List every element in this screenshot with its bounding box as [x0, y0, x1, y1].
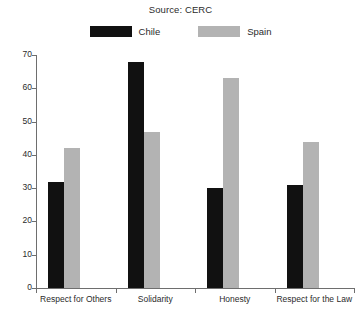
plot-area: 010203040506070 — [36, 55, 354, 288]
x-axis-tick — [116, 288, 117, 293]
bar-spain-respect-for-others — [64, 148, 80, 288]
bar-chile-honesty — [207, 188, 223, 288]
category-label: Solidarity — [138, 294, 173, 304]
x-axis-tick — [36, 288, 37, 293]
bar-spain-solidarity — [144, 132, 160, 288]
category-labels: Respect for OthersSolidarityHonestyRespe… — [36, 294, 354, 310]
category-label: Respect for the Law — [276, 294, 352, 304]
bar-groups — [36, 55, 354, 288]
y-axis-tick-label: 20 — [23, 215, 32, 225]
bar-chile-respect-for-others — [48, 182, 64, 289]
bar-group — [195, 55, 275, 288]
x-axis-tick — [275, 288, 276, 293]
bar-chile-solidarity — [128, 62, 144, 288]
legend-swatch-chile — [90, 26, 132, 37]
legend-swatch-spain — [198, 26, 240, 37]
y-axis-tick-label: 10 — [23, 249, 32, 259]
x-axis-tick — [195, 288, 196, 293]
y-axis-tick-label: 60 — [23, 82, 32, 92]
category-label: Honesty — [219, 294, 250, 304]
bar-spain-respect-for-the-law — [303, 142, 319, 288]
chart-legend: Chile Spain — [0, 26, 361, 37]
bar-chile-respect-for-the-law — [287, 185, 303, 288]
y-axis-tick-label: 40 — [23, 149, 32, 159]
legend-item-chile: Chile — [90, 26, 161, 37]
bar-group — [275, 55, 355, 288]
bar-group — [36, 55, 116, 288]
legend-label-chile: Chile — [139, 26, 161, 37]
legend-label-spain: Spain — [247, 26, 271, 37]
bar-spain-honesty — [223, 78, 239, 288]
chart-title: Source: CERC — [0, 4, 361, 15]
legend-item-spain: Spain — [198, 26, 271, 37]
y-axis-tick-label: 30 — [23, 182, 32, 192]
bar-chart: Source: CERC Chile Spain 010203040506070… — [0, 0, 361, 326]
y-axis-tick-label: 0 — [27, 282, 32, 292]
y-axis-tick-label: 50 — [23, 116, 32, 126]
y-axis-tick-label: 70 — [23, 49, 32, 59]
bar-group — [116, 55, 196, 288]
x-axis-tick — [354, 288, 355, 293]
category-label: Respect for Others — [40, 294, 111, 304]
